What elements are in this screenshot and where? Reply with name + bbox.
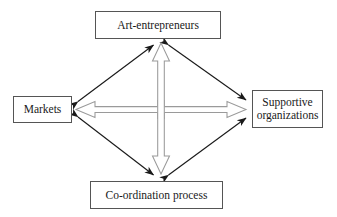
arrow-crossing-overlay [158, 100, 165, 119]
connector-coordination-process-supportive-organizations [169, 118, 247, 175]
node-markets[interactable]: Markets [13, 96, 72, 123]
node-coordination-process-label: Co-ordination process [103, 189, 211, 202]
connector-art-entrepreneurs-supportive-organizations [169, 45, 247, 100]
node-art-entrepreneurs-label: Art-entrepreneurs [114, 19, 202, 32]
diagram-canvas: Art-entrepreneurs Markets Supportive org… [0, 0, 337, 217]
node-supportive-organizations[interactable]: Supportive organizations [252, 90, 323, 128]
node-supportive-organizations-label: Supportive organizations [254, 96, 322, 122]
node-art-entrepreneurs[interactable]: Art-entrepreneurs [95, 11, 221, 39]
connector-markets-coordination-process [78, 117, 154, 175]
connector-markets-art-entrepreneurs [78, 45, 154, 102]
node-markets-label: Markets [21, 103, 65, 116]
node-coordination-process[interactable]: Co-ordination process [90, 181, 223, 209]
